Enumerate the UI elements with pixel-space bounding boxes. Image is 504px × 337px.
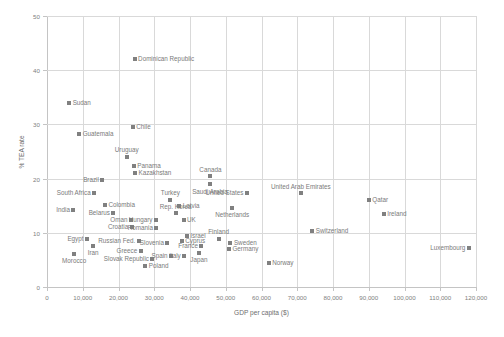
- data-point-marker[interactable]: [71, 208, 75, 212]
- data-point-marker[interactable]: [182, 218, 186, 222]
- x-axis-tick: [369, 287, 370, 291]
- data-point-label: Brazil: [83, 176, 99, 183]
- x-axis-tick: [262, 287, 263, 291]
- data-point-label: Slovak Republic: [104, 256, 149, 263]
- data-point-marker[interactable]: [197, 251, 201, 255]
- gridline-vertical: [369, 16, 370, 287]
- data-point-label: Chile: [136, 123, 150, 130]
- y-axis-tick: [43, 16, 47, 17]
- data-point-marker[interactable]: [125, 155, 129, 159]
- data-point-label: Russian Fed.: [98, 238, 135, 245]
- data-point-label: South Africa: [57, 189, 91, 196]
- x-axis-tick-label: 30,000: [145, 294, 164, 301]
- data-point-marker[interactable]: [133, 171, 137, 175]
- gridline-vertical: [476, 16, 477, 287]
- data-point-label: Guatemala: [83, 130, 114, 137]
- data-point-marker[interactable]: [77, 132, 81, 136]
- data-point-marker[interactable]: [267, 261, 271, 265]
- data-point-label: Hungary: [129, 217, 153, 224]
- data-point-label: Romania: [128, 225, 153, 232]
- data-point-marker[interactable]: [299, 191, 303, 195]
- y-axis-tick-label: 10: [24, 229, 40, 236]
- data-point-marker[interactable]: [227, 247, 231, 251]
- x-axis-tick: [47, 287, 48, 291]
- x-axis-tick: [440, 287, 441, 291]
- data-point-marker[interactable]: [228, 241, 232, 245]
- data-point-marker[interactable]: [85, 237, 89, 241]
- data-point-label: Croatia: [108, 223, 128, 230]
- data-point-marker[interactable]: [132, 164, 136, 168]
- x-axis-tick: [154, 287, 155, 291]
- data-point-marker[interactable]: [100, 178, 104, 182]
- scatter-chart: 010,00020,00030,00040,00050,00060,00070,…: [0, 0, 504, 337]
- data-point-marker[interactable]: [143, 264, 147, 268]
- data-point-label: Slovenia: [140, 240, 164, 247]
- x-axis-title: GDP per capita ($): [234, 309, 289, 316]
- data-point-label: Germany: [232, 245, 258, 252]
- x-axis-tick: [405, 287, 406, 291]
- x-axis-tick-label: 70,000: [288, 294, 307, 301]
- data-point-marker[interactable]: [208, 174, 212, 178]
- data-point-marker[interactable]: [245, 191, 249, 195]
- data-point-marker[interactable]: [182, 254, 186, 258]
- data-point-label: Ireland: [387, 211, 406, 218]
- data-point-label: Qatar: [372, 197, 388, 204]
- data-point-label: Iran: [88, 249, 99, 256]
- data-point-marker[interactable]: [133, 57, 137, 61]
- data-point-marker[interactable]: [310, 229, 314, 233]
- data-point-label: United States: [206, 189, 244, 196]
- data-point-label: Poland: [149, 262, 169, 269]
- gridline-vertical: [83, 16, 84, 287]
- data-point-marker[interactable]: [367, 198, 371, 202]
- data-point-marker[interactable]: [168, 198, 172, 202]
- gridline-horizontal: [47, 70, 476, 71]
- y-axis-tick: [43, 70, 47, 71]
- y-axis-tick-label: 20: [24, 175, 40, 182]
- data-point-marker[interactable]: [103, 203, 107, 207]
- data-point-label: Belarus: [89, 210, 110, 217]
- data-point-marker[interactable]: [131, 125, 135, 129]
- data-point-marker[interactable]: [174, 211, 178, 215]
- x-axis-tick-label: 40,000: [181, 294, 200, 301]
- data-point-marker[interactable]: [382, 212, 386, 216]
- gridline-horizontal: [47, 16, 476, 17]
- gridline-horizontal: [47, 124, 476, 125]
- x-axis-tick: [297, 287, 298, 291]
- data-point-marker[interactable]: [208, 182, 212, 186]
- gridline-vertical: [262, 16, 263, 287]
- data-point-marker[interactable]: [154, 226, 158, 230]
- data-point-marker[interactable]: [165, 241, 169, 245]
- data-point-label: Turkey: [161, 189, 180, 196]
- data-point-marker[interactable]: [150, 257, 154, 261]
- gridline-vertical: [297, 16, 298, 287]
- data-point-label: Dominican Republic: [138, 56, 194, 63]
- data-point-label: Italy: [169, 253, 181, 260]
- data-point-label: Japan: [190, 256, 207, 263]
- data-point-label: UK: [187, 216, 196, 223]
- data-point-marker[interactable]: [154, 218, 158, 222]
- data-point-marker[interactable]: [67, 101, 71, 105]
- x-axis-tick-label: 110,000: [429, 294, 451, 301]
- data-point-label: Rep. Korea: [160, 203, 192, 210]
- data-point-marker[interactable]: [92, 191, 96, 195]
- data-point-label: Sudan: [73, 99, 91, 106]
- x-axis-tick-label: 60,000: [252, 294, 271, 301]
- data-point-label: Uruguay: [115, 146, 139, 153]
- data-point-label: India: [56, 207, 70, 214]
- data-point-marker[interactable]: [230, 206, 234, 210]
- data-point-label: Netherlands: [215, 211, 249, 218]
- gridline-vertical: [405, 16, 406, 287]
- data-point-label: Greece: [117, 248, 138, 255]
- data-point-marker[interactable]: [91, 244, 95, 248]
- data-point-label: Luxembourg: [430, 244, 465, 251]
- data-point-label: Colombia: [108, 202, 135, 209]
- y-axis-tick: [43, 179, 47, 180]
- data-point-marker[interactable]: [139, 249, 143, 253]
- data-point-marker[interactable]: [217, 237, 221, 241]
- data-point-marker[interactable]: [199, 244, 203, 248]
- data-point-marker[interactable]: [111, 211, 115, 215]
- data-point-marker[interactable]: [72, 252, 76, 256]
- data-point-marker[interactable]: [467, 246, 471, 250]
- x-axis-tick: [476, 287, 477, 291]
- data-point-label: United Arab Emirates: [271, 183, 331, 190]
